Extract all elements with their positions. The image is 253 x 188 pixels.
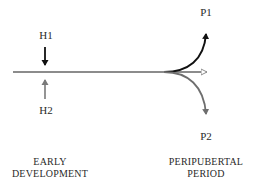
p1-curve-arrow (164, 34, 206, 72)
early-line2: DEVELOPMENT (10, 168, 90, 180)
p2-curve-arrow (164, 72, 206, 114)
peripubertal-line2: PERIOD (163, 168, 249, 180)
early-development-label: EARLY DEVELOPMENT (10, 156, 90, 180)
peripubertal-period-label: PERIPUBERTAL PERIOD (163, 156, 249, 180)
peripubertal-line1: PERIPUBERTAL (163, 156, 249, 168)
h1-label: H1 (37, 29, 55, 42)
p1-label: P1 (197, 6, 215, 19)
p2-label: P2 (197, 130, 215, 143)
early-line1: EARLY (10, 156, 90, 168)
h2-label: H2 (37, 104, 55, 117)
